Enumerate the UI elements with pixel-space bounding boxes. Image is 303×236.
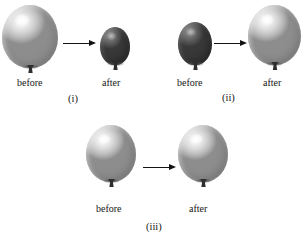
balloon-body xyxy=(86,125,136,182)
arrow-iii-icon xyxy=(143,163,176,172)
balloon-figure: before after (i) before after (ii) xyxy=(0,0,303,236)
balloon-iii-before xyxy=(86,125,136,182)
balloon-i-after-label: after xyxy=(102,77,120,88)
arrow-shaft xyxy=(63,43,90,44)
balloon-i-before-label: before xyxy=(17,77,43,88)
panel-i-label: (i) xyxy=(68,93,78,104)
arrow-head xyxy=(89,40,96,46)
balloon-ii-after xyxy=(248,5,301,65)
panel-iii-label: (iii) xyxy=(146,221,162,232)
arrow-i-icon xyxy=(63,39,96,48)
balloon-body xyxy=(178,22,212,65)
balloon-body xyxy=(178,125,228,182)
arrow-ii-icon xyxy=(214,39,247,48)
balloon-iii-before-label: before xyxy=(96,203,122,214)
arrow-head xyxy=(169,164,176,170)
balloon-i-before xyxy=(2,5,58,68)
balloon-i-after xyxy=(100,27,130,65)
panel-ii-label: (ii) xyxy=(222,92,235,103)
balloon-iii-after xyxy=(178,125,228,182)
arrow-shaft xyxy=(143,167,170,168)
balloon-body xyxy=(100,27,130,65)
balloon-ii-before-label: before xyxy=(177,77,203,88)
balloon-ii-after-label: after xyxy=(263,77,281,88)
arrow-head xyxy=(240,40,247,46)
balloon-body xyxy=(2,5,58,68)
balloon-ii-before xyxy=(178,22,212,65)
balloon-iii-after-label: after xyxy=(189,203,207,214)
balloon-body xyxy=(248,5,301,65)
arrow-shaft xyxy=(214,43,241,44)
